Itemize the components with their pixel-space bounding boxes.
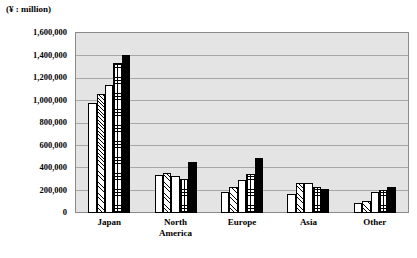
bar xyxy=(371,192,379,213)
bar xyxy=(188,162,196,213)
bar xyxy=(221,192,229,213)
x-axis-tick-label-line: Asia xyxy=(300,217,317,227)
bar-group xyxy=(342,33,408,213)
y-axis-tick-label: 1,000,000 xyxy=(0,95,71,105)
x-axis-tick-label: Europe xyxy=(209,217,275,228)
bar-group xyxy=(76,33,142,213)
y-axis-tick-label: 1,600,000 xyxy=(0,27,71,37)
bar xyxy=(287,194,295,213)
bar xyxy=(180,179,188,213)
y-axis-tick-label: 1,400,000 xyxy=(0,50,71,60)
bar-chart-figure: (¥ : million) 1,600,0001,400,0001,200,00… xyxy=(0,0,417,258)
bar xyxy=(354,203,362,213)
y-axis-tick-label: 400,000 xyxy=(0,162,71,172)
x-axis-tick-label-group: JapanNorthAmericaEuropeAsiaOther xyxy=(76,217,408,257)
y-axis-tick-label-group: 1,600,0001,400,0001,200,0001,000,000800,… xyxy=(0,32,71,213)
bar xyxy=(304,183,312,213)
y-axis-tick-label: 800,000 xyxy=(0,117,71,127)
x-axis-tick-label: Asia xyxy=(275,217,341,228)
bar xyxy=(321,189,329,213)
bar-group xyxy=(209,33,275,213)
bar xyxy=(379,190,387,213)
x-axis-tick-label: Other xyxy=(342,217,408,228)
bar xyxy=(97,94,105,213)
bar xyxy=(171,176,179,213)
y-axis-tick-label: 1,200,000 xyxy=(0,72,71,82)
bar xyxy=(163,173,171,213)
bar xyxy=(122,55,130,213)
bar xyxy=(88,103,96,213)
bar-group xyxy=(142,33,208,213)
y-axis-tick-label: 0 xyxy=(0,207,71,217)
bar xyxy=(387,187,395,213)
bar xyxy=(255,158,263,213)
bar xyxy=(362,201,370,213)
x-axis-tick-label-line: North xyxy=(164,217,187,227)
bar xyxy=(313,187,321,213)
y-axis-tick-label: 200,000 xyxy=(0,185,71,195)
bar xyxy=(238,180,246,213)
bar-group xyxy=(275,33,341,213)
x-axis-tick-label: NorthAmerica xyxy=(142,217,208,239)
x-axis-tick-label-line: Japan xyxy=(97,217,121,227)
bar xyxy=(229,187,237,213)
y-axis-tick-label: 600,000 xyxy=(0,140,71,150)
bar xyxy=(113,63,121,213)
bar xyxy=(246,174,254,213)
x-axis-tick-label: Japan xyxy=(76,217,142,228)
bars-layer xyxy=(76,33,408,213)
bar xyxy=(105,85,113,213)
bar xyxy=(296,183,304,213)
x-axis-tick-label-line: Other xyxy=(363,217,386,227)
y-axis-unit-caption: (¥ : million) xyxy=(6,4,51,14)
x-axis-tick-label-line: Europe xyxy=(228,217,256,227)
bar xyxy=(155,175,163,213)
x-axis-tick-label-line: America xyxy=(142,228,208,239)
